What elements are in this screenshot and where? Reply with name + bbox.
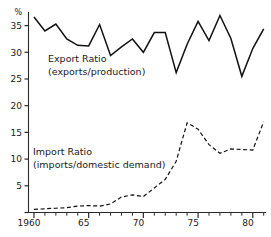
y-tick-label-25: 25 <box>11 74 22 84</box>
export-ratio-label-name: Export Ratio <box>48 53 107 64</box>
x-axis-ticks <box>34 213 264 219</box>
import-ratio-annotation: Import Ratio (imports/domestic demand) <box>33 146 165 170</box>
line-chart: % 35 30 25 20 15 10 5 1960 65 70 75 80 E… <box>0 0 271 237</box>
x-tick-label-70: 70 <box>133 218 145 228</box>
import-ratio-label-name: Import Ratio <box>33 146 92 157</box>
chart-axes <box>29 12 267 213</box>
y-tick-label-10: 10 <box>11 154 23 164</box>
y-tick-label-30: 30 <box>11 48 23 58</box>
y-tick-label-20: 20 <box>11 101 23 111</box>
y-tick-label-15: 15 <box>11 128 22 138</box>
import-ratio-label-definition: (imports/domestic demand) <box>33 159 165 170</box>
x-tick-label-75: 75 <box>188 218 199 228</box>
x-tick-label-80: 80 <box>242 218 254 228</box>
x-tick-label-1960: 1960 <box>18 218 41 228</box>
y-tick-label-35: 35 <box>11 21 22 31</box>
y-tick-label-5: 5 <box>16 181 22 191</box>
chart-container: % 35 30 25 20 15 10 5 1960 65 70 75 80 E… <box>0 0 271 237</box>
export-ratio-annotation: Export Ratio (exports/production) <box>48 53 145 77</box>
y-axis-unit-label: % <box>14 8 22 17</box>
x-tick-label-65: 65 <box>78 218 89 228</box>
export-ratio-label-definition: (exports/production) <box>48 66 145 77</box>
y-axis-ticks <box>25 26 29 213</box>
